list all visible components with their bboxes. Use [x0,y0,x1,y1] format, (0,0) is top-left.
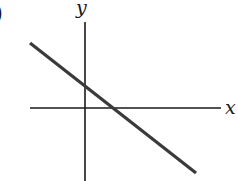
line-graph-figure: ) y x [0,0,238,181]
y-axis-label: y [75,0,87,18]
x-axis-label: x [225,96,236,118]
panel-label-fragment: ) [0,1,3,25]
